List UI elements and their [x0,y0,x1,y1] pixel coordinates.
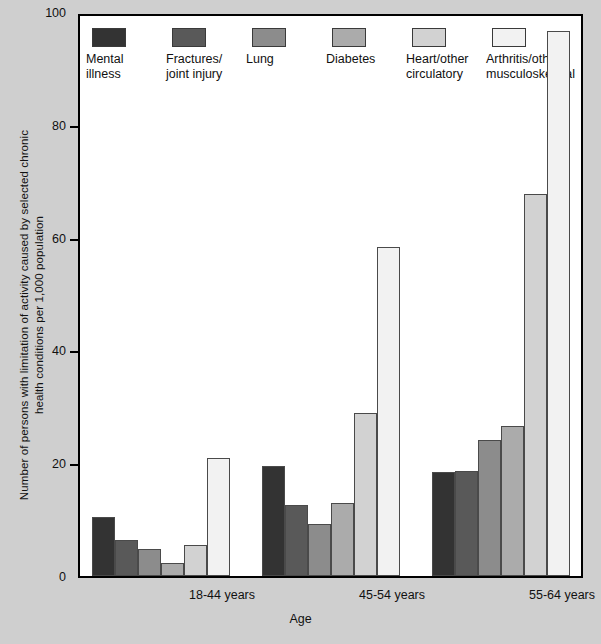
y-axis-tick-label: 60 [26,232,66,246]
y-axis-tick-label: 80 [26,119,66,133]
bar [501,426,524,576]
x-axis-group-label: 55-64 years [492,588,601,602]
bar [184,545,207,576]
y-axis-tick-label: 40 [26,344,66,358]
bar [377,247,400,576]
bar [285,505,308,576]
bar [331,503,354,576]
bar-series-container [80,16,581,576]
bar [115,540,138,576]
bar [262,466,285,576]
bar [478,440,501,576]
x-axis-group-label: 45-54 years [322,588,462,602]
y-axis-tick-label: 0 [26,570,66,584]
x-axis-title: Age [0,612,601,626]
bar [207,458,230,576]
bar [524,194,547,576]
bar [432,472,455,576]
y-axis-tick-label: 100 [26,6,66,20]
chart-figure: Number of persons with limitation of act… [0,0,601,644]
y-axis-tick-label: 20 [26,457,66,471]
x-axis-group-label: 18-44 years [152,588,292,602]
bar [455,471,478,576]
bar [92,517,115,576]
bar [547,31,570,576]
bar [308,524,331,576]
bar [354,413,377,576]
bar [161,563,184,576]
bar [138,549,161,576]
